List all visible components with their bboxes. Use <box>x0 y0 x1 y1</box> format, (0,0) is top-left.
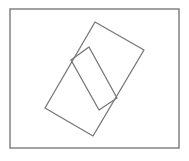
large-rotated-rectangle <box>45 22 144 136</box>
outer-frame <box>10 9 179 148</box>
diagram-canvas <box>0 0 189 161</box>
small-rotated-rectangle <box>71 47 117 110</box>
diagram-svg <box>0 0 189 161</box>
